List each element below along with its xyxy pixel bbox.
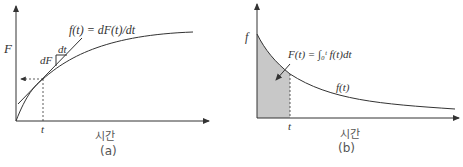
dt-label: dt [58,44,67,55]
panel-a-caption: (a) [100,145,117,157]
panel-b-y-label: f [245,31,248,43]
dF-label: dF [40,55,52,66]
panel-b-caption: (b) [338,142,355,154]
derivative-equation: f(t) = dF(t)/dt [69,24,135,36]
panel-b-graph [257,4,459,118]
panel-b-t-tick: t [288,121,291,132]
panel-a-t-tick: t [41,124,44,135]
panel-a-x-label: 시간 [95,131,115,142]
integral-equation: F(t) = ∫₀ᵗ f(t)dt [288,49,351,60]
panel-a-y-label: F [4,42,12,55]
tangent-line [18,38,82,104]
cumulative-curve [16,32,193,121]
shaded-area [257,34,290,118]
curve-label: f(t) [336,82,349,93]
panel-b-x-label: 시간 [340,129,360,140]
